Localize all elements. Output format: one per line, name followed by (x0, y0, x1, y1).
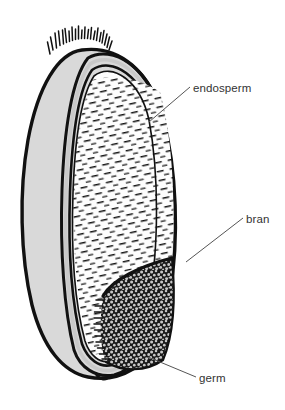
label-bran-group[interactable]: bran (186, 213, 269, 262)
label-endosperm: endosperm (193, 82, 251, 94)
label-bran: bran (246, 213, 269, 225)
leader-line-germ (148, 357, 196, 377)
kernel-diagram-svg: endosperm bran germ (0, 0, 285, 410)
label-germ: germ (199, 372, 226, 384)
kernel-diagram-figure: endosperm bran germ (0, 0, 285, 410)
leader-line-bran (186, 218, 243, 262)
